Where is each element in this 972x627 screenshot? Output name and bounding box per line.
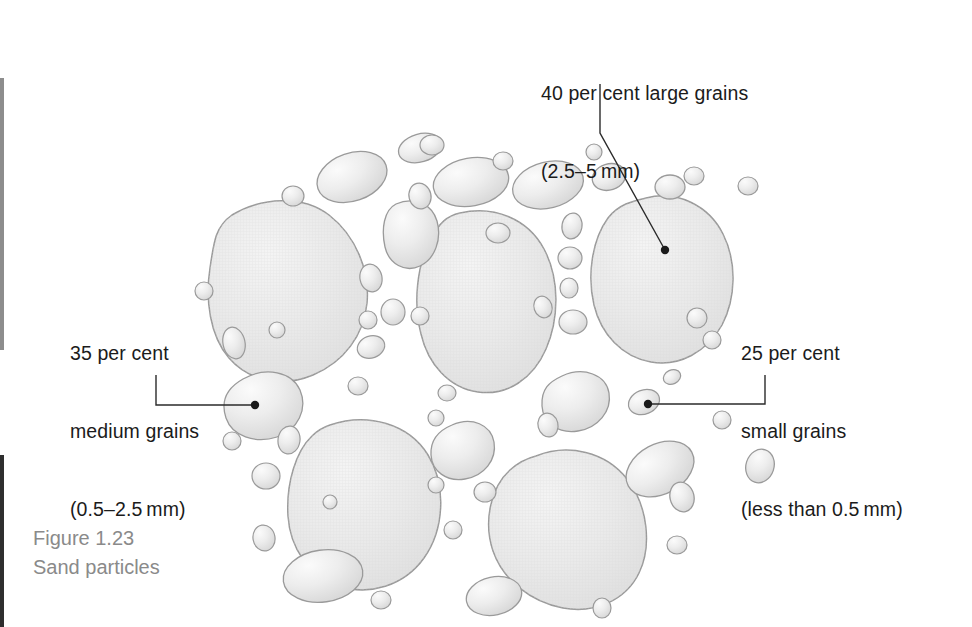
large-grain (489, 450, 647, 609)
callout-medium-line2: medium grains (70, 418, 199, 444)
small-grain (535, 411, 560, 439)
leader-dot-small (644, 400, 652, 408)
figure-title: Sand particles (33, 553, 160, 582)
small-grain (531, 294, 555, 320)
small-grain (420, 135, 444, 155)
medium-grain (667, 480, 698, 515)
small-grain (703, 331, 721, 349)
leader-dot-large (661, 246, 669, 254)
small-grain (428, 410, 444, 426)
figure-number: Figure 1.23 (33, 524, 160, 553)
small-grain (559, 310, 587, 334)
medium-grain (224, 372, 303, 439)
medium-grain (383, 201, 438, 269)
callout-medium-line3: (0.5–2.5 mm) (70, 496, 199, 522)
small-grain (438, 385, 456, 401)
page-edge-rule-bottom (0, 455, 4, 627)
callout-large-line2: (2.5–5 mm) (541, 158, 748, 184)
small-grain (223, 432, 241, 450)
medium-grain (395, 128, 445, 167)
small-grain (269, 322, 285, 338)
callout-small-line1: 25 per cent (741, 340, 903, 366)
medium-grain (429, 152, 512, 212)
callout-small-line2: small grains (741, 418, 903, 444)
large-grain (417, 211, 556, 393)
small-grain (625, 385, 664, 419)
small-grain (282, 186, 304, 206)
leader-dot-medium (251, 401, 259, 409)
small-grain (252, 463, 280, 489)
page-edge-rule-top (0, 78, 4, 350)
small-grain (323, 495, 337, 509)
small-grain (411, 307, 429, 325)
small-grain (558, 247, 582, 269)
small-grain (493, 152, 513, 170)
small-grain (381, 299, 405, 325)
small-grain (661, 367, 683, 387)
small-grain (359, 311, 377, 329)
small-grain (474, 482, 496, 502)
small-grain (371, 591, 391, 609)
small-grain (276, 425, 302, 456)
figure-container: 40 per cent large grains (2.5–5 mm) 35 p… (0, 0, 972, 627)
callout-small-grains: 25 per cent small grains (less than 0.5 … (741, 288, 903, 574)
small-grain (357, 262, 384, 294)
medium-grain (310, 143, 394, 212)
callout-small-line3: (less than 0.5 mm) (741, 496, 903, 522)
small-grain (428, 477, 444, 493)
small-grain (220, 325, 248, 361)
callout-large-line1: 40 per cent large grains (541, 80, 748, 106)
small-grain (667, 536, 687, 554)
large-grain (208, 201, 367, 382)
small-grain (354, 332, 388, 362)
medium-grain (463, 572, 526, 621)
medium-grain (542, 372, 609, 432)
small-grain (486, 223, 510, 243)
small-grain (251, 523, 277, 552)
small-grain (713, 411, 731, 429)
small-grain (348, 377, 368, 395)
small-grain (444, 521, 462, 539)
large-grain-group (208, 196, 733, 609)
small-grain (406, 181, 434, 212)
callout-medium-line1: 35 per cent (70, 340, 199, 366)
medium-grain (280, 545, 366, 608)
small-grain (560, 278, 578, 298)
medium-grain (616, 430, 703, 508)
figure-caption: Figure 1.23 Sand particles (33, 524, 160, 582)
small-grain (593, 598, 611, 618)
small-grain (687, 308, 707, 328)
callout-large-grains: 40 per cent large grains (2.5–5 mm) (541, 28, 748, 236)
large-grain (288, 420, 441, 590)
medium-grain (431, 421, 494, 479)
